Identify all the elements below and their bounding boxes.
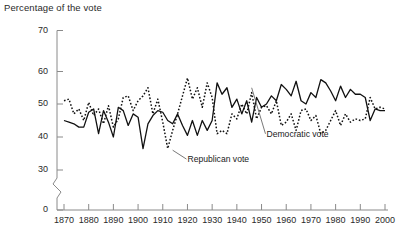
y-tick-label-40: 40	[24, 131, 48, 141]
x-tick-label-2000: 2000	[370, 215, 400, 225]
annotation-republican-vote-leader	[173, 150, 187, 159]
y-tick-label-30: 30	[24, 164, 48, 174]
series-line-democratic	[64, 80, 385, 149]
vote-percentage-chart: Percentage of the vote 03040506070 18701…	[0, 0, 407, 243]
axes	[53, 31, 388, 211]
y-tick-label-0: 0	[24, 204, 48, 214]
annotation-democratic-vote: Democratic vote	[266, 129, 328, 139]
y-tick-label-60: 60	[24, 66, 48, 76]
y-axis-break-marker	[53, 178, 61, 198]
y-tick-label-50: 50	[24, 98, 48, 108]
plot-area	[0, 0, 407, 243]
annotation-republican-vote: Republican vote	[187, 154, 249, 164]
annotation-leader-lines	[173, 88, 266, 159]
y-tick-label-70: 70	[24, 25, 48, 35]
series-line-republican	[64, 78, 385, 149]
data-series	[64, 78, 385, 149]
